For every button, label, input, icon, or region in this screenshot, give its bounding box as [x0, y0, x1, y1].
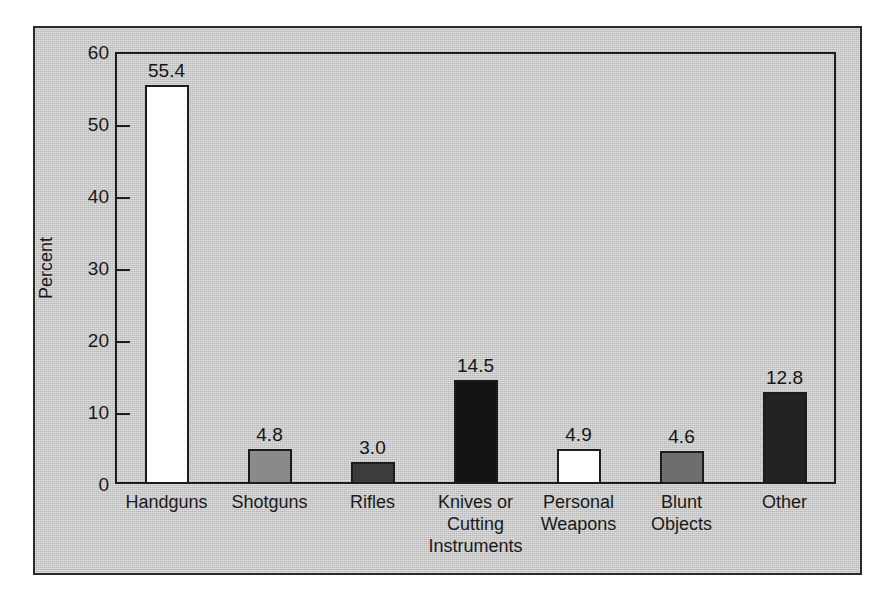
bar-value-label: 14.5	[457, 356, 494, 375]
x-category-label: Handguns	[115, 492, 218, 514]
y-tick-label: 50	[75, 115, 109, 134]
bar-rect[interactable]	[763, 392, 807, 484]
x-category-label: Shotguns	[218, 492, 321, 514]
bar-value-label: 4.8	[256, 425, 282, 444]
bars-layer: 55.44.83.014.54.94.612.8	[115, 52, 836, 484]
bar-group[interactable]: 12.8	[763, 52, 807, 484]
bar-group[interactable]: 55.4	[145, 52, 189, 484]
bar-rect[interactable]	[248, 449, 292, 484]
bar-group[interactable]: 14.5	[454, 52, 498, 484]
x-category-label: Personal Weapons	[527, 492, 630, 536]
bar-rect[interactable]	[145, 85, 189, 484]
bar-rect[interactable]	[454, 380, 498, 484]
bar-group[interactable]: 4.9	[557, 52, 601, 484]
y-tick-label: 20	[75, 331, 109, 350]
x-axis-category-labels: HandgunsShotgunsRiflesKnives or Cutting …	[115, 492, 836, 572]
bar-value-label: 4.6	[668, 427, 694, 446]
bar-rect[interactable]	[660, 451, 704, 484]
y-tick-label: 30	[75, 259, 109, 278]
bar-value-label: 3.0	[359, 438, 385, 457]
x-category-label: Other	[733, 492, 836, 514]
x-category-label: Rifles	[321, 492, 424, 514]
figure-panel: Percent 0102030405060 55.44.83.014.54.94…	[33, 26, 862, 575]
bar-group[interactable]: 4.8	[248, 52, 292, 484]
bar-value-label: 12.8	[766, 368, 803, 387]
chart-page: Percent 0102030405060 55.44.83.014.54.94…	[0, 0, 887, 596]
y-tick-label: 10	[75, 403, 109, 422]
y-tick-label: 0	[75, 475, 109, 494]
y-tick-label: 40	[75, 187, 109, 206]
y-axis-tick-labels: 0102030405060	[63, 52, 109, 484]
bar-rect[interactable]	[351, 462, 395, 484]
y-tick-label: 60	[75, 43, 109, 62]
bar-rect[interactable]	[557, 449, 601, 484]
bar-group[interactable]: 3.0	[351, 52, 395, 484]
x-category-label: Blunt Objects	[630, 492, 733, 536]
bar-value-label: 4.9	[565, 425, 591, 444]
x-category-label: Knives or Cutting Instruments	[424, 492, 527, 558]
bar-group[interactable]: 4.6	[660, 52, 704, 484]
y-axis-title-label: Percent	[36, 237, 57, 299]
y-axis-title: Percent	[33, 52, 59, 484]
bar-value-label: 55.4	[148, 61, 185, 80]
